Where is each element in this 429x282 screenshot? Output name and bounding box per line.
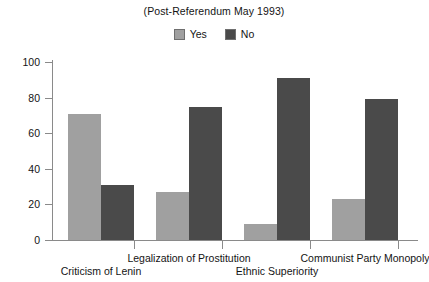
x-axis-tick [398,241,399,249]
bars-layer [0,0,428,240]
x-axis-tick [222,241,223,249]
x-axis-label: Criticism of Lenin [61,265,142,277]
x-axis-label: Ethnic Superiority [236,265,318,277]
x-axis-tick [310,241,311,249]
bar [189,107,222,241]
bar [277,78,310,240]
x-axis-line [52,240,418,241]
bar [156,192,189,240]
bar [365,99,398,240]
bar [68,114,101,240]
bar [332,199,365,240]
x-axis-label: Communist Party Monopoly [301,252,429,264]
x-axis-tick [134,241,135,249]
x-axis-label: Legalization of Prostitution [127,252,250,264]
bar [244,224,277,240]
bar [101,185,134,240]
y-axis-tick [45,240,52,241]
